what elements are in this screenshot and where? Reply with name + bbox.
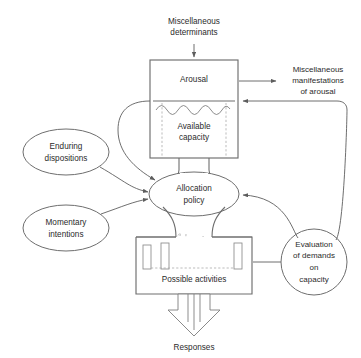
allocation-policy-line1: Allocation [176, 184, 212, 193]
evaluation-circle [281, 229, 347, 295]
enduring-dispositions-line1: Enduring [50, 142, 83, 151]
momentary-intentions-node: Momentary intentions [23, 199, 148, 251]
evaluation-line2: of demands [293, 251, 335, 260]
activity-bar-2 [161, 243, 169, 269]
evaluation-to-allocation-arrow [243, 195, 298, 238]
activity-bar-1 [143, 245, 151, 269]
momentary-intentions-line1: Momentary [46, 218, 88, 227]
responses-node: Responses [168, 294, 220, 352]
arousal-node: Arousal Available capacity [150, 60, 238, 158]
misc-determinants-line2: determinants [170, 28, 217, 37]
possible-activities-label: Possible activities [162, 275, 227, 284]
allocation-policy-line2: policy [184, 196, 206, 205]
responses-label: Responses [174, 343, 215, 352]
enduring-dispositions-ellipse [23, 129, 109, 175]
misc-determinants-line1: Miscellaneous [168, 17, 220, 26]
capacity-model-diagram: Arousal Available capacity Miscellaneous… [0, 0, 361, 358]
momentary-intentions-line2: intentions [48, 230, 83, 239]
allocation-top-merge [180, 173, 208, 180]
evaluation-line4: capacity [299, 275, 328, 284]
evaluation-to-arousal-arrow [243, 101, 347, 240]
intentions-to-allocation-arrow [101, 199, 148, 214]
enduring-dispositions-node: Enduring dispositions [23, 129, 148, 192]
misc-manifestations-line2: manifestations [292, 76, 344, 85]
momentary-intentions-ellipse [23, 205, 109, 251]
evaluation-of-demands-node: Evaluation of demands on capacity [281, 229, 347, 295]
diagram-canvas: Arousal Available capacity Miscellaneous… [0, 0, 361, 358]
miscellaneous-determinants-node: Miscellaneous determinants [168, 17, 220, 57]
enduring-dispositions-line2: dispositions [45, 154, 88, 163]
allocation-policy-node: Allocation policy [149, 172, 239, 216]
evaluation-line1: Evaluation [295, 240, 332, 249]
misc-manifestations-line1: Miscellaneous [293, 65, 344, 74]
miscellaneous-manifestations-node: Miscellaneous manifestations of arousal [239, 65, 344, 96]
misc-manifestations-line3: of arousal [300, 87, 335, 96]
evaluation-line3: on [310, 263, 319, 272]
available-capacity-label-line2: capacity [179, 133, 210, 142]
available-capacity-label-line1: Available [177, 122, 211, 131]
possible-activities-node: Possible activities [136, 237, 252, 294]
activity-bar-3 [234, 243, 242, 269]
arousal-label: Arousal [180, 75, 208, 84]
